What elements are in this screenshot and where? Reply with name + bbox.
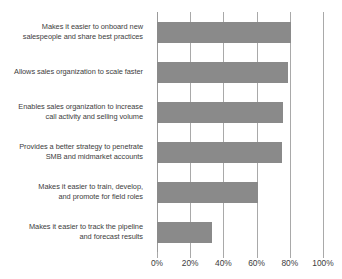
- bar: [157, 102, 283, 123]
- category-label-line: SMB and midmarket accounts: [0, 152, 143, 162]
- x-tick-label: 0%: [151, 258, 163, 269]
- bar-row: [157, 182, 323, 203]
- x-axis-tick-labels: 0%20%40%60%80%100%: [157, 258, 323, 274]
- category-label: Allows sales organization to scale faste…: [0, 67, 143, 77]
- category-label-line: Makes it easier to onboard new: [0, 22, 143, 32]
- plot-area: [157, 12, 323, 252]
- x-tick-label: 60%: [248, 258, 265, 269]
- category-label-line: Provides a better strategy to penetrate: [0, 142, 143, 152]
- bar-row: [157, 142, 323, 163]
- gridline-100pct: [323, 12, 324, 252]
- bar: [157, 222, 212, 243]
- category-label: Provides a better strategy to penetrateS…: [0, 142, 143, 161]
- category-label-line: Allows sales organization to scale faste…: [0, 67, 143, 77]
- bar: [157, 22, 291, 43]
- bar-row: [157, 62, 323, 83]
- category-label-line: Enables sales organization to increase: [0, 102, 143, 112]
- category-label-line: Makes it easier to track the pipeline: [0, 222, 143, 232]
- category-label-line: and forecast results: [0, 232, 143, 242]
- bar-row: [157, 222, 323, 243]
- x-tick-label: 40%: [215, 258, 232, 269]
- bar: [157, 142, 282, 163]
- bar: [157, 62, 288, 83]
- bar-row: [157, 22, 323, 43]
- category-label-line: Makes it easier to train, develop,: [0, 182, 143, 192]
- category-label: Makes it easier to track the pipelineand…: [0, 222, 143, 241]
- category-label: Makes it easier to train, develop,and pr…: [0, 182, 143, 201]
- category-axis-labels: Makes it easier to onboard newsalespeopl…: [0, 12, 150, 252]
- category-label: Enables sales organization to increaseca…: [0, 102, 143, 121]
- bar-row: [157, 102, 323, 123]
- category-label-line: salespeople and share best practices: [0, 32, 143, 42]
- category-label-line: and promote for field roles: [0, 192, 143, 202]
- bar: [157, 182, 258, 203]
- category-label-line: call activity and selling volume: [0, 112, 143, 122]
- x-tick-label: 80%: [281, 258, 298, 269]
- horizontal-bar-chart: Makes it easier to onboard newsalespeopl…: [0, 0, 342, 279]
- x-tick-label: 100%: [312, 258, 333, 269]
- category-label: Makes it easier to onboard newsalespeopl…: [0, 22, 143, 41]
- x-tick-label: 20%: [182, 258, 199, 269]
- bar-series: [157, 12, 323, 252]
